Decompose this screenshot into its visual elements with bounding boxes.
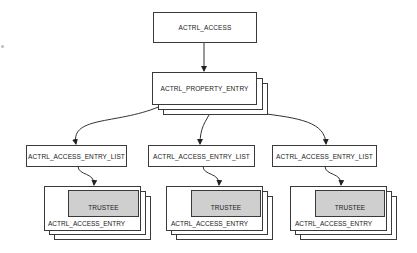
actrl-access-box: ACTRL_ACCESS xyxy=(153,12,257,43)
entry-label-2: ACTRL_ACCESS_ENTRY xyxy=(171,220,248,227)
entry-label-1: ACTRL_ACCESS_ENTRY xyxy=(48,220,125,227)
arrow-property-to-list-1 xyxy=(76,105,163,144)
entry-list-box-3: ACTRL_ACCESS_ENTRY_LIST xyxy=(272,145,377,167)
entry-list-label: ACTRL_ACCESS_ENTRY_LIST xyxy=(153,153,250,160)
scan-speck xyxy=(1,45,4,48)
arrow-property-to-list-3 xyxy=(258,113,326,144)
property-entry-box: ACTRL_PROPERTY_ENTRY xyxy=(152,72,257,105)
entry-list-box-2: ACTRL_ACCESS_ENTRY_LIST xyxy=(148,145,255,167)
entry-list-label: ACTRL_ACCESS_ENTRY_LIST xyxy=(28,153,125,160)
arrow-property-to-list-2 xyxy=(200,110,212,144)
trustee-label: TRUSTEE xyxy=(211,204,241,211)
trustee-label: TRUSTEE xyxy=(88,204,118,211)
entry-list-label: ACTRL_ACCESS_ENTRY_LIST xyxy=(276,153,373,160)
trustee-box-3: TRUSTEE xyxy=(315,190,385,217)
trustee-box-2: TRUSTEE xyxy=(191,190,261,217)
entry-label-3: ACTRL_ACCESS_ENTRY xyxy=(295,220,372,227)
entry-list-box-1: ACTRL_ACCESS_ENTRY_LIST xyxy=(26,145,127,167)
actrl-access-label: ACTRL_ACCESS xyxy=(179,24,232,31)
arrow-list-2-to-entry-2 xyxy=(203,166,219,185)
arrow-list-3-to-entry-3 xyxy=(325,166,341,185)
trustee-box-1: TRUSTEE xyxy=(68,190,139,217)
property-entry-label: ACTRL_PROPERTY_ENTRY xyxy=(160,85,248,92)
arrow-list-1-to-entry-1 xyxy=(78,166,94,185)
trustee-label: TRUSTEE xyxy=(335,204,365,211)
